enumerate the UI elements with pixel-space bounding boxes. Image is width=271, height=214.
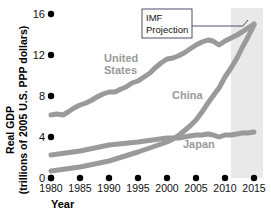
y-axis-title-line1: Real GDP bbox=[4, 106, 16, 154]
xtick-dot-1995 bbox=[135, 175, 141, 181]
xtick-dot-2005 bbox=[193, 175, 199, 181]
xtick-dot-1985 bbox=[77, 175, 83, 181]
xtick-label-2010: 2010 bbox=[213, 182, 237, 194]
ytick-label-4: 4 bbox=[39, 131, 45, 143]
xtick-dot-1990 bbox=[106, 175, 112, 181]
xtick-label-1985: 1985 bbox=[68, 182, 92, 194]
xtick-dot-2015 bbox=[251, 175, 257, 181]
xtick-dot-2000 bbox=[164, 175, 170, 181]
ytick-label-8: 8 bbox=[39, 90, 45, 102]
ytick-dot-4 bbox=[48, 134, 54, 140]
xtick-dot-2010 bbox=[222, 175, 228, 181]
xtick-label-1980: 1980 bbox=[39, 182, 63, 194]
imf-projection-label-line2: Projection bbox=[146, 24, 188, 35]
series-label-united-states-line2: States bbox=[104, 64, 137, 76]
series-label-united-states-line1: United bbox=[104, 52, 138, 64]
ytick-dot-12 bbox=[48, 52, 54, 58]
series-label-japan: Japan bbox=[183, 138, 215, 150]
xtick-dot-1980 bbox=[48, 175, 54, 181]
y-axis-title-line2: (trillions of 2005 U.S. PPP dollars) bbox=[17, 26, 29, 194]
xtick-label-2005: 2005 bbox=[184, 182, 208, 194]
chart-canvas: 16 12 8 4 0 1980 1985 1990 1995 2000 200… bbox=[0, 0, 271, 214]
x-axis-title: Year bbox=[51, 198, 75, 210]
xtick-label-1995: 1995 bbox=[126, 182, 150, 194]
imf-projection-label-line1: IMF bbox=[146, 12, 163, 23]
gdp-line-chart-figure: 16 12 8 4 0 1980 1985 1990 1995 2000 200… bbox=[0, 0, 271, 214]
ytick-dot-8 bbox=[48, 93, 54, 99]
ytick-dot-16 bbox=[48, 11, 54, 17]
ytick-label-16: 16 bbox=[33, 8, 45, 20]
series-label-china: China bbox=[172, 89, 203, 101]
xtick-label-2015: 2015 bbox=[242, 182, 266, 194]
xtick-label-2000: 2000 bbox=[155, 182, 179, 194]
xtick-label-1990: 1990 bbox=[97, 182, 121, 194]
series-line-japan bbox=[51, 132, 254, 155]
ytick-label-12: 12 bbox=[33, 49, 45, 61]
